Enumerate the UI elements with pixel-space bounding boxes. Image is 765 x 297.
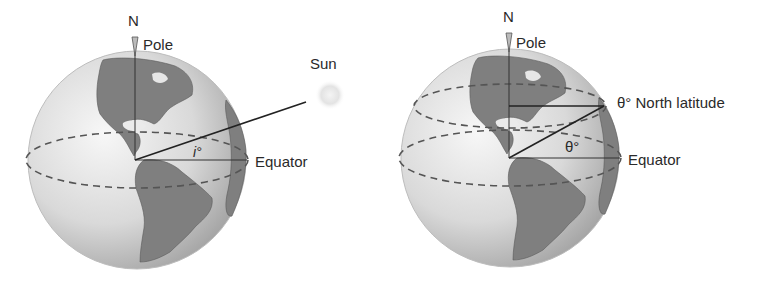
- equator-label: Equator: [628, 151, 681, 168]
- pole-label: Pole: [143, 36, 173, 53]
- north-label: N: [128, 12, 139, 29]
- sun-label: Sun: [310, 55, 337, 72]
- sun-icon: [315, 80, 345, 110]
- right-globe-figure: N Pole θ° North latitude θ° Equator: [399, 8, 725, 267]
- pole-label: Pole: [516, 34, 546, 51]
- diagram-canvas: N Pole Sun i° Equator N Pole θ° North la…: [0, 0, 765, 297]
- north-label: N: [503, 8, 514, 25]
- angle-label: θ°: [565, 138, 579, 155]
- latitude-label: θ° North latitude: [617, 94, 725, 111]
- left-globe-figure: N Pole Sun i° Equator: [26, 12, 345, 269]
- equator-label: Equator: [255, 153, 308, 170]
- angle-label: i°: [193, 144, 202, 160]
